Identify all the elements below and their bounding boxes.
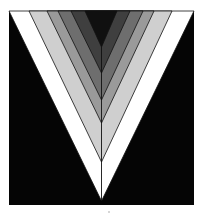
- stray-dot: [108, 211, 110, 213]
- chevron-artwork: [0, 0, 202, 216]
